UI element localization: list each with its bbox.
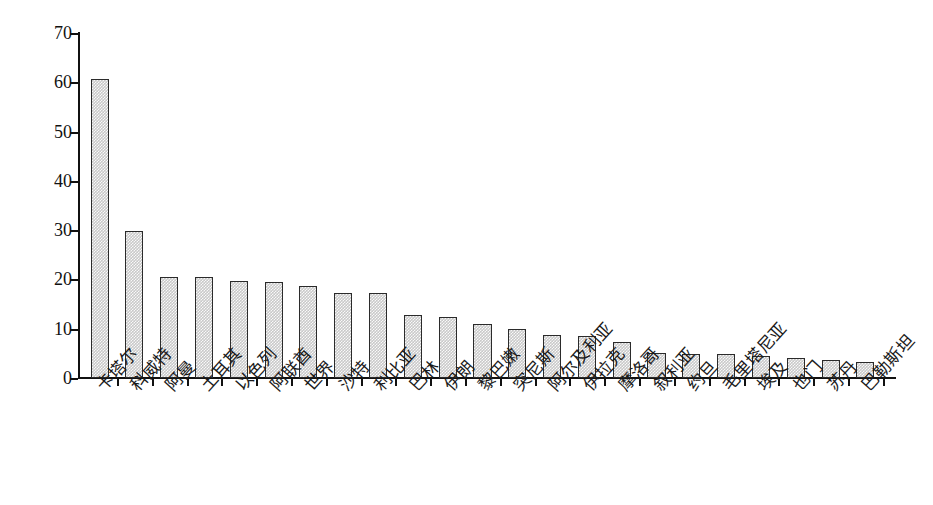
y-tick-label: 30 [54, 221, 72, 239]
y-tick-label: 0 [63, 369, 72, 387]
bar [334, 293, 352, 378]
y-tick-label: 20 [54, 270, 72, 288]
y-tick-label: 10 [54, 320, 72, 338]
y-tick-label: 50 [54, 123, 72, 141]
y-tick-label: 60 [54, 73, 72, 91]
bar [195, 277, 213, 378]
bar [369, 293, 387, 378]
bar-chart: 010203040506070 卡塔尔科威特阿曼土耳其以色列阿联酋世界沙特利比亚… [0, 0, 933, 505]
y-tick-label: 40 [54, 172, 72, 190]
y-tick-label: 70 [54, 24, 72, 42]
bar [91, 79, 109, 378]
